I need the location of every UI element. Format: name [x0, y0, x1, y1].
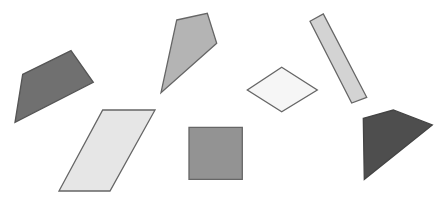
- square-shape: [189, 127, 242, 179]
- shapes-canvas: [0, 0, 448, 204]
